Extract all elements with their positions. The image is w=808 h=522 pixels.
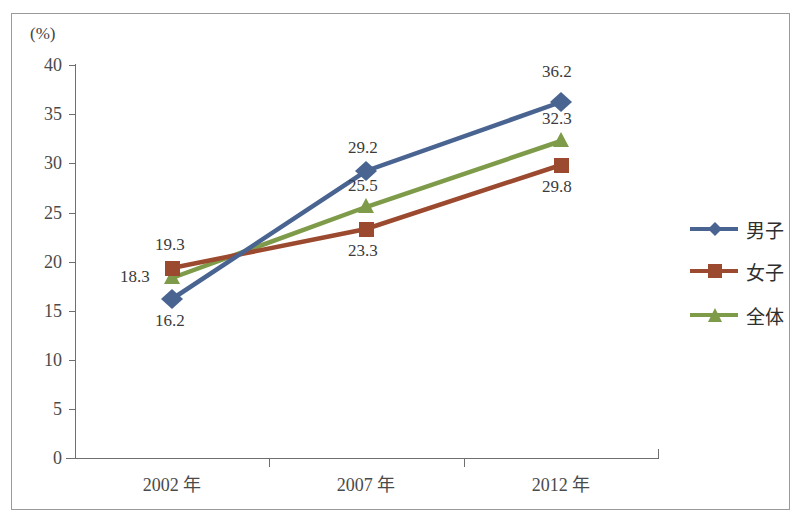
value-label-girls-2002: 19.3 — [155, 236, 185, 253]
y-tick-5 — [69, 409, 75, 410]
value-label-total-2007: 25.5 — [348, 177, 378, 194]
y-tick-label-35: 35 — [22, 105, 62, 123]
value-label-boys-2007: 29.2 — [348, 139, 378, 156]
figure-border — [11, 13, 790, 510]
y-tick-label-15: 15 — [22, 302, 62, 320]
legend-item-boys[interactable]: 男子 — [690, 215, 795, 241]
y-axis-unit-label: (%) — [30, 24, 55, 44]
triangle-icon — [708, 308, 722, 322]
legend-label-total: 全体 — [746, 302, 784, 329]
diamond-icon — [708, 222, 722, 236]
value-label-girls-2012: 29.8 — [542, 178, 572, 195]
y-tick-label-30: 30 — [22, 154, 62, 172]
chart-legend: 男子 女子 全体 — [690, 215, 795, 340]
x-tick-boundary-1 — [269, 458, 270, 467]
y-tick-0 — [66, 458, 75, 459]
y-tick-20 — [69, 262, 75, 263]
x-label-2007: 2007 年 — [266, 470, 466, 496]
x-label-2012: 2012 年 — [461, 470, 661, 496]
y-tick-15 — [69, 311, 75, 312]
square-icon — [708, 264, 722, 278]
y-tick-label-40: 40 — [22, 56, 62, 74]
y-tick-10 — [69, 360, 75, 361]
value-label-boys-2002: 16.2 — [155, 312, 185, 329]
x-axis-line — [75, 458, 659, 459]
x-tick-boundary-2 — [464, 458, 465, 467]
value-label-total-2012: 32.3 — [542, 110, 572, 127]
value-label-total-2002: 18.3 — [120, 268, 150, 285]
value-label-boys-2012: 36.2 — [542, 63, 572, 80]
y-tick-label-20: 20 — [22, 253, 62, 271]
chart-figure: (%) 40 35 30 25 20 15 10 5 0 2002 年 2007… — [0, 0, 808, 522]
y-tick-label-5: 5 — [22, 400, 62, 418]
x-label-2002: 2002 年 — [72, 470, 272, 496]
y-tick-30 — [69, 163, 75, 164]
legend-item-total[interactable]: 全体 — [690, 301, 795, 327]
y-axis-line — [75, 64, 76, 459]
legend-label-girls: 女子 — [746, 258, 784, 285]
y-tick-25 — [69, 213, 75, 214]
y-tick-label-25: 25 — [22, 204, 62, 222]
y-tick-label-0: 0 — [22, 449, 62, 467]
x-axis-end-tick — [658, 449, 659, 459]
value-label-girls-2007: 23.3 — [348, 242, 378, 259]
y-tick-35 — [69, 114, 75, 115]
legend-item-girls[interactable]: 女子 — [690, 257, 795, 283]
legend-label-boys: 男子 — [746, 216, 784, 243]
y-tick-40 — [69, 65, 75, 66]
y-tick-label-10: 10 — [22, 351, 62, 369]
